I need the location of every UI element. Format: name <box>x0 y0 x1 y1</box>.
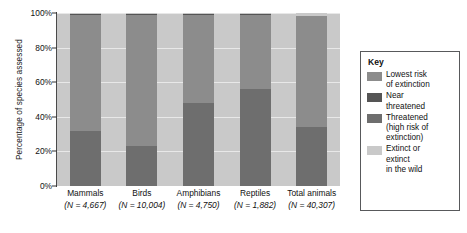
x-tick-label-name: Amphibians <box>170 188 227 200</box>
bar-segment <box>126 15 157 146</box>
legend-label-line: (high risk of <box>386 123 428 133</box>
bar-segment <box>70 131 101 186</box>
bar-mammals <box>70 13 101 186</box>
legend-label-line: Lowest risk <box>386 70 430 80</box>
y-tick-label: 80% <box>35 43 52 53</box>
legend-label-line: of extinction <box>386 80 430 90</box>
y-tick-mark <box>52 82 57 83</box>
x-tick-label-name: Birds <box>114 188 171 200</box>
x-tick-label: Reptiles(N = 1,882) <box>227 188 284 211</box>
legend-label-line: extinct <box>386 155 422 165</box>
plot-area <box>57 13 340 186</box>
y-tick-mark <box>52 116 57 117</box>
x-tick-label-count: (N = 10,004) <box>114 200 171 212</box>
legend-item: Threatened(high risk ofextinction) <box>367 113 454 144</box>
bar-segment <box>126 146 157 186</box>
x-tick-label-name: Total animals <box>283 188 340 200</box>
bar-segment <box>240 89 271 186</box>
bar-segment <box>296 127 327 186</box>
bar-reptiles <box>240 13 271 186</box>
legend-title: Key <box>368 57 454 67</box>
legend-label-line: Near <box>386 91 425 101</box>
legend-item: Extinct orextinctin the wild <box>367 144 454 175</box>
bar-segment <box>70 15 101 131</box>
bar-segment <box>296 16 327 127</box>
x-tick-label: Birds(N = 10,004) <box>114 188 171 211</box>
legend-item: Lowest riskof extinction <box>367 70 454 90</box>
chart-figure: Percentage of species assessed 0%20%40%6… <box>0 0 467 233</box>
x-axis-tick-labels: Mammals(N = 4,667)Birds(N = 10,004)Amphi… <box>57 188 340 233</box>
legend-items: Lowest riskof extinctionNearthreatenedTh… <box>367 70 454 175</box>
x-tick-label-name: Mammals <box>57 188 114 200</box>
y-tick-label: 0% <box>40 181 52 191</box>
legend-label: Nearthreatened <box>386 91 425 111</box>
y-tick-mark <box>52 151 57 152</box>
y-tick-label: 60% <box>35 77 52 87</box>
y-axis-tick-labels: 0%20%40%60%80%100% <box>18 0 52 233</box>
legend-swatch <box>367 72 382 81</box>
legend-swatch <box>367 114 382 123</box>
y-tick-mark <box>52 186 57 187</box>
legend-item: Nearthreatened <box>367 91 454 111</box>
bar-birds <box>126 13 157 186</box>
y-tick-label: 20% <box>35 146 52 156</box>
legend-label-line: Extinct or <box>386 144 422 154</box>
bar-segment <box>183 103 214 186</box>
legend-swatch <box>367 93 382 102</box>
y-tick-mark <box>52 47 57 48</box>
x-tick-label: Total animals(N = 40,307) <box>283 188 340 211</box>
x-tick-label-name: Reptiles <box>227 188 284 200</box>
legend-label-line: in the wild <box>386 165 422 175</box>
legend-label-line: Threatened <box>386 113 428 123</box>
bar-segment <box>240 15 271 89</box>
legend-swatch <box>367 146 382 155</box>
legend-box: Key Lowest riskof extinctionNearthreaten… <box>360 51 460 211</box>
x-tick-label-count: (N = 40,307) <box>283 200 340 212</box>
bar-segment <box>183 15 214 103</box>
bar-total-animals <box>296 13 327 186</box>
x-tick-label-count: (N = 4,667) <box>57 200 114 212</box>
x-tick-label-count: (N = 1,882) <box>227 200 284 212</box>
y-tick-mark <box>52 13 57 14</box>
legend-label: Lowest riskof extinction <box>386 70 430 90</box>
legend-label: Extinct orextinctin the wild <box>386 144 422 175</box>
y-tick-label: 100% <box>31 8 52 18</box>
x-tick-label: Amphibians(N = 4,750) <box>170 188 227 211</box>
legend-label: Threatened(high risk ofextinction) <box>386 113 428 144</box>
bar-amphibians <box>183 13 214 186</box>
x-tick-label-count: (N = 4,750) <box>170 200 227 212</box>
x-tick-label: Mammals(N = 4,667) <box>57 188 114 211</box>
legend-label-line: extinction) <box>386 133 428 143</box>
y-tick-label: 40% <box>35 112 52 122</box>
legend-label-line: threatened <box>386 102 425 112</box>
